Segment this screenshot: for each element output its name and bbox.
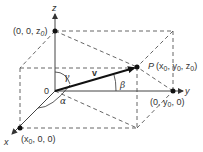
point-y0 — [171, 89, 176, 94]
z-axis-label: z — [51, 3, 57, 13]
alpha-label: α — [60, 96, 66, 106]
y0-point-label: (0, y0, 0) — [150, 97, 184, 108]
vector-direction-angles-diagram: z y x 0 v γ α β (0, 0, z0) P(x0, y0, z0)… — [0, 0, 203, 152]
beta-arc — [114, 75, 116, 91]
edge-top-left-diagonal — [20, 31, 55, 68]
point-P — [135, 65, 140, 70]
origin-label: 0 — [44, 86, 49, 96]
x0-point-label: (x0, 0, 0) — [21, 134, 55, 145]
gamma-label: γ — [64, 72, 70, 82]
beta-label: β — [119, 80, 125, 90]
labels: z y x 0 v γ α β (0, 0, z0) P(x0, y0, z0)… — [3, 3, 197, 147]
line-z0-to-P — [55, 31, 137, 67]
vector-label: v — [92, 68, 97, 78]
point-z0 — [53, 29, 58, 34]
x-axis-label: x — [3, 137, 9, 147]
y-axis-label: y — [184, 86, 190, 96]
point-x0 — [18, 126, 23, 131]
line-O-to-xy-projection — [55, 91, 137, 128]
z0-point-label: (0, 0, z0) — [13, 26, 47, 37]
P-point-label: P(x0, y0, z0) — [148, 61, 197, 72]
